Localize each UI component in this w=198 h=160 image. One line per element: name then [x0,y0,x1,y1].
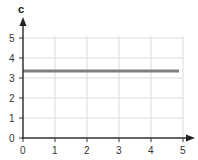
x-tick-label: 2 [84,145,90,156]
x-tick-label: 4 [148,145,154,156]
y-axis-title: c [18,3,24,15]
x-tick-label: 1 [52,145,58,156]
y-tick-label: 4 [9,53,15,64]
y-tick-label: 0 [9,133,15,144]
y-tick-label: 2 [9,93,15,104]
x-tick-label: 0 [20,145,26,156]
x-axis-arrow-icon [186,135,195,142]
y-axis-arrow-icon [20,17,27,26]
y-tick-label: 5 [9,33,15,44]
chart: 0 1 2 3 4 5 0 1 2 3 4 5 c [0,0,198,160]
y-tick-label: 1 [9,113,15,124]
y-tick-label: 3 [9,73,15,84]
grid [23,36,183,138]
x-tick-label: 3 [116,145,122,156]
x-tick-label: 5 [180,145,186,156]
